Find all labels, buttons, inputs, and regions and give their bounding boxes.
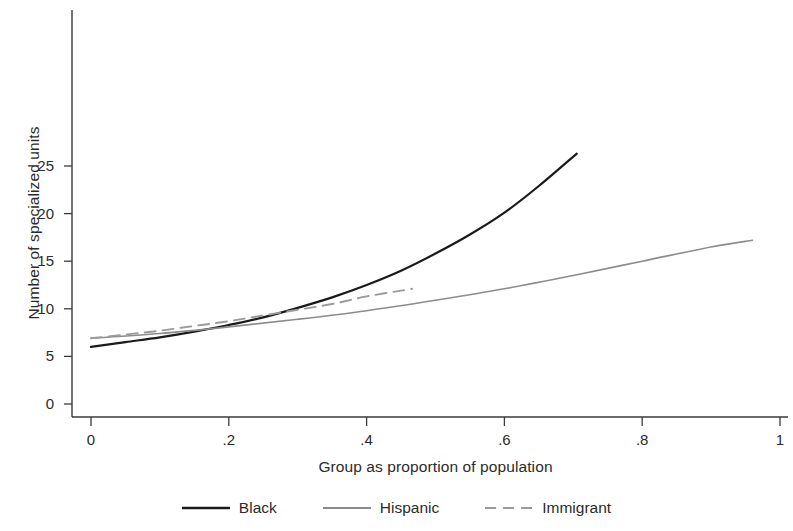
legend-swatch-black — [182, 502, 230, 514]
legend-swatch-hispanic — [323, 502, 371, 514]
legend-swatch-immigrant — [485, 502, 533, 514]
legend-label: Hispanic — [380, 500, 439, 516]
y-axis-ticks — [64, 166, 72, 404]
x-tick-label: .6 — [484, 432, 524, 447]
x-tick-label: 1 — [760, 432, 793, 447]
legend-label: Black — [239, 500, 277, 516]
plot-area — [0, 0, 793, 531]
y-tick-label: 15 — [20, 253, 54, 268]
x-axis-label: Group as proportion of population — [91, 458, 780, 476]
chart-figure: Number of specialized units Group as pro… — [0, 0, 793, 531]
series-line-hispanic — [91, 240, 752, 338]
x-tick-label: 0 — [71, 432, 111, 447]
y-tick-label: 20 — [20, 206, 54, 221]
y-tick-label: 0 — [20, 396, 54, 411]
x-tick-label: .2 — [209, 432, 249, 447]
series-line-black — [91, 154, 577, 347]
legend-entry-immigrant[interactable]: Immigrant — [485, 500, 611, 516]
x-axis-ticks — [91, 417, 780, 426]
legend-label: Immigrant — [542, 500, 611, 516]
series-line-immigrant — [91, 289, 412, 339]
x-tick-label: .8 — [622, 432, 662, 447]
y-tick-label: 25 — [20, 158, 54, 173]
data-series-group — [91, 154, 752, 347]
chart-legend: BlackHispanicImmigrant — [0, 500, 793, 516]
y-tick-label: 5 — [20, 348, 54, 363]
x-tick-label: .4 — [347, 432, 387, 447]
legend-entry-hispanic[interactable]: Hispanic — [323, 500, 439, 516]
axis-lines — [72, 10, 788, 417]
legend-entry-black[interactable]: Black — [182, 500, 277, 516]
y-tick-label: 10 — [20, 301, 54, 316]
